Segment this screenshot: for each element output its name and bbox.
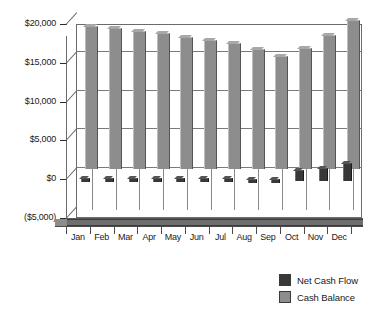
bar-depth-stub [353, 169, 354, 210]
chart-legend: Net Cash Flow Cash Balance [279, 274, 358, 308]
bar-net-cash-flow [129, 178, 138, 182]
axis-edge [66, 36, 67, 230]
bar-cash-balance [347, 20, 360, 169]
bar-depth-stub [234, 169, 235, 210]
bar-depth-stub [187, 169, 188, 210]
bar-depth-stub [282, 169, 283, 210]
y-axis-tick-label: $10,000 [25, 97, 56, 106]
y-axis-tick-label: $0 [46, 174, 56, 183]
bar-depth-stub [329, 169, 330, 210]
bar-depth-stub [306, 169, 307, 210]
bar-depth-stub [92, 169, 93, 210]
bar-cash-balance [157, 33, 170, 169]
chart-floor [55, 219, 363, 226]
bar-net-cash-flow [343, 163, 352, 181]
bar-net-cash-flow [176, 178, 185, 182]
bar-net-cash-flow [248, 179, 257, 183]
bar-net-cash-flow [295, 170, 304, 181]
bar-net-cash-flow [200, 178, 209, 182]
y-axis-tick-label: $15,000 [25, 58, 56, 67]
bar-cash-balance [228, 43, 241, 169]
legend-swatch-cash-balance [279, 291, 291, 303]
bar-cash-balance [204, 40, 217, 169]
legend-label-net-cash-flow: Net Cash Flow [297, 275, 358, 286]
bar-cash-balance [133, 31, 146, 169]
bar-depth-stub [163, 169, 164, 210]
bar-cash-balance [275, 56, 288, 169]
legend-swatch-net-cash-flow [279, 274, 291, 286]
bar-cash-balance [180, 37, 193, 169]
bar-net-cash-flow [319, 168, 328, 181]
legend-item-net-cash-flow: Net Cash Flow [279, 274, 358, 286]
bar-net-cash-flow [105, 178, 114, 182]
axis-depth-connector [66, 12, 78, 25]
bar-cash-balance [109, 28, 122, 169]
x-axis-tick-label: Dec [325, 232, 353, 242]
bar-net-cash-flow [153, 178, 162, 182]
plot-area [66, 24, 362, 220]
bar-cash-balance [252, 49, 265, 169]
y-axis-tick-label: $5,000 [30, 135, 56, 144]
y-axis: $20,000$15,000$10,000$5,000$0($5,000) [0, 0, 56, 240]
bar-depth-stub [116, 169, 117, 210]
legend-item-cash-balance: Cash Balance [279, 291, 358, 303]
bar-depth-stub [258, 169, 259, 210]
bar-cash-balance [299, 48, 312, 169]
floor-left-corner [55, 219, 67, 226]
legend-label-cash-balance: Cash Balance [297, 292, 355, 303]
y-axis-tick-label: ($5,000) [24, 213, 56, 222]
bar-net-cash-flow [224, 178, 233, 182]
bar-cash-balance [323, 35, 336, 169]
bar-net-cash-flow [271, 179, 280, 183]
bar-depth-stub [139, 169, 140, 210]
y-axis-tick-label: $20,000 [25, 19, 56, 28]
cash-flow-chart: $20,000$15,000$10,000$5,000$0($5,000) Ja… [0, 0, 379, 315]
bar-depth-stub [211, 169, 212, 210]
bar-cash-balance [85, 26, 98, 169]
bar-net-cash-flow [81, 178, 90, 182]
